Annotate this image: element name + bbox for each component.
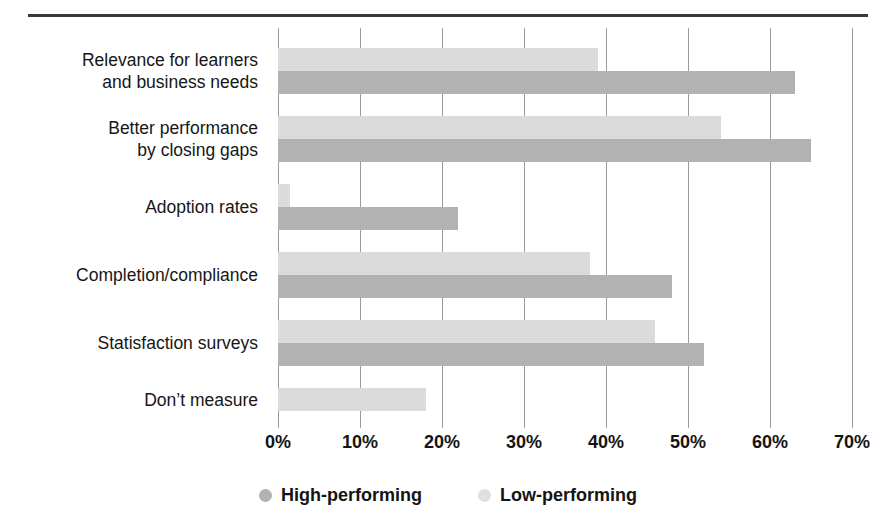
category-label: Statisfaction surveys	[98, 332, 258, 354]
category-label: Completion/compliance	[76, 264, 258, 286]
legend-marker-circle-icon	[259, 489, 272, 502]
chart-legend: High-performingLow-performing	[0, 478, 896, 512]
bar-low-performing	[278, 184, 290, 207]
bar-low-performing	[278, 116, 721, 139]
category-label: Don’t measure	[144, 389, 258, 411]
plot-wrapper: Relevance for learners and business need…	[0, 28, 896, 428]
bar-high-performing	[278, 71, 795, 94]
legend-item[interactable]: High-performing	[259, 485, 422, 506]
bar-high-performing	[278, 343, 704, 366]
legend-marker-circle-icon	[478, 489, 491, 502]
x-axis-ticks: 0%10%20%30%40%50%60%70%	[278, 432, 852, 462]
bar-high-performing	[278, 275, 672, 298]
x-tick-label: 70%	[834, 432, 870, 453]
legend-label: High-performing	[281, 485, 422, 506]
x-tick-label: 0%	[265, 432, 291, 453]
bar-low-performing	[278, 320, 655, 343]
bar-high-performing	[278, 139, 811, 162]
x-tick-label: 30%	[506, 432, 542, 453]
category-label: Better performance by closing gaps	[108, 117, 258, 161]
category-label: Adoption rates	[145, 196, 258, 218]
plot-area	[278, 28, 852, 428]
x-tick-label: 40%	[588, 432, 624, 453]
chart-title-clipped	[26, 0, 866, 4]
legend-label: Low-performing	[500, 485, 637, 506]
gridline-70%	[852, 28, 853, 428]
x-tick-label: 20%	[424, 432, 460, 453]
category-label: Relevance for learners and business need…	[82, 49, 258, 93]
bar-low-performing	[278, 252, 590, 275]
bar-low-performing	[278, 388, 426, 411]
x-tick-label: 60%	[752, 432, 788, 453]
x-tick-label: 10%	[342, 432, 378, 453]
title-divider-rule	[28, 14, 868, 17]
bar-chart-figure: Relevance for learners and business need…	[0, 0, 896, 527]
legend-item[interactable]: Low-performing	[478, 485, 637, 506]
bar-high-performing	[278, 207, 458, 230]
category-axis-labels: Relevance for learners and business need…	[0, 28, 272, 428]
bar-low-performing	[278, 48, 598, 71]
x-tick-label: 50%	[670, 432, 706, 453]
